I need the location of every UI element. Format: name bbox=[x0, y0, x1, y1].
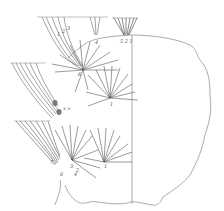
label-top-right-cluster: 5 2 1 bbox=[120, 38, 133, 44]
label-bottom-4: 4 bbox=[73, 171, 77, 177]
label-top-2: 2 bbox=[61, 28, 65, 34]
label-top-3: 3 bbox=[67, 25, 70, 31]
label-center-1: 1 bbox=[110, 101, 113, 107]
fiber-bundle-top-right bbox=[112, 18, 138, 35]
label-top-1: 1 bbox=[57, 31, 60, 37]
label-top-4: 4 bbox=[94, 39, 98, 45]
starburst-center-lower bbox=[86, 66, 138, 106]
label-bottom-3: 3 bbox=[70, 163, 73, 169]
anatomical-diagram: 1 2 3 4 5 2 1 6 1 x x 7 3 2 1 6 4 bbox=[0, 0, 224, 211]
label-bottom-1: 1 bbox=[104, 163, 107, 169]
label-bottom-6: 6 bbox=[60, 171, 64, 177]
label-small-marks: x x bbox=[63, 105, 70, 111]
label-bottom-7: 7 bbox=[50, 159, 54, 165]
starburst-bottom-b bbox=[84, 128, 132, 162]
fiber-bundle-left-middle bbox=[10, 63, 62, 118]
starburst-center-upper bbox=[52, 40, 118, 92]
